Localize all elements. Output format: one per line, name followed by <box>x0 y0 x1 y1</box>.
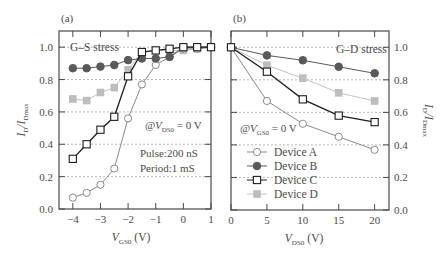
data-point-marker <box>227 44 234 51</box>
data-point-marker <box>207 44 214 51</box>
data-point-marker <box>166 45 173 52</box>
y-tick-label: 0.4 <box>394 139 408 151</box>
data-point-marker <box>110 61 118 69</box>
panel-b-gd-stress: 051015200.00.20.40.60.81.0(b)VDS0 (V)ID/… <box>227 12 435 247</box>
x-tick-label: 5 <box>264 214 270 226</box>
data-point-marker <box>299 74 307 82</box>
data-point-marker <box>124 73 131 80</box>
y-tick-label: 0.0 <box>39 203 53 215</box>
legend-marker <box>253 162 261 170</box>
legend-item: Device A <box>247 146 318 158</box>
x-tick-label: 0 <box>228 214 234 226</box>
data-point-marker <box>263 68 270 75</box>
data-point-marker <box>69 95 77 103</box>
data-point-marker <box>299 56 307 64</box>
y-tick-label: 0.0 <box>394 204 408 216</box>
series-device-c <box>227 44 378 126</box>
y-tick-label: 0.4 <box>39 138 53 150</box>
x-tick-label: 15 <box>333 214 345 226</box>
data-point-marker <box>371 97 379 105</box>
x-tick-label: −3 <box>95 213 107 225</box>
panel-a-gs-stress: −4−3−2−1010.00.20.40.60.81.0(a)VGS0 (V)I… <box>15 12 215 246</box>
stress-label: G–S stress <box>70 41 119 53</box>
data-point-marker <box>69 155 76 162</box>
y-tick-label: 0.2 <box>394 171 408 183</box>
legend-label: Device A <box>274 146 318 158</box>
data-point-marker <box>83 141 90 148</box>
data-point-marker <box>83 97 91 105</box>
data-point-marker <box>335 112 342 119</box>
data-point-marker <box>371 119 378 126</box>
legend-label: Device D <box>274 188 318 200</box>
legend-marker <box>253 190 261 198</box>
legend-item: Device D <box>247 188 318 200</box>
bias-annotation: @VGS0 = 0 V <box>240 122 297 136</box>
y-tick-label: 1.0 <box>39 41 53 53</box>
data-point-marker <box>124 115 131 122</box>
x-tick-label: 1 <box>208 213 214 225</box>
data-point-marker <box>335 89 343 97</box>
panel-label: (a) <box>61 12 74 25</box>
legend-marker <box>253 176 260 183</box>
x-tick-label: −2 <box>122 213 134 225</box>
period-annotation: Period:1 mS <box>140 162 195 174</box>
data-point-marker <box>69 194 76 201</box>
y-axis-title: ID/IDmax <box>15 103 30 138</box>
data-point-marker <box>263 97 270 104</box>
data-point-marker <box>166 53 174 61</box>
legend: Device ADevice BDevice CDevice D <box>247 146 318 200</box>
data-point-marker <box>83 189 90 196</box>
data-point-marker <box>180 44 187 51</box>
data-point-marker <box>152 47 159 54</box>
data-point-marker <box>110 84 118 92</box>
data-point-marker <box>69 64 77 72</box>
data-point-marker <box>138 81 145 88</box>
data-point-marker <box>124 56 132 64</box>
x-tick-label: −4 <box>67 213 79 225</box>
data-point-marker <box>371 146 378 153</box>
data-point-marker <box>97 181 104 188</box>
y-tick-label: 1.0 <box>394 41 408 53</box>
y-tick-label: 0.8 <box>39 74 53 86</box>
data-point-marker <box>371 70 379 78</box>
data-point-marker <box>152 55 160 63</box>
data-point-marker <box>111 165 118 172</box>
legend-label: Device B <box>274 160 317 172</box>
data-point-marker <box>194 44 201 51</box>
legend-marker <box>253 148 260 155</box>
x-axis-title: VDS0 (V) <box>285 232 324 247</box>
legend-item: Device B <box>247 160 317 172</box>
y-tick-label: 0.2 <box>39 171 53 183</box>
x-tick-label: −1 <box>150 213 162 225</box>
x-axis-title: VGS0 (V) <box>112 231 151 246</box>
pulse-annotation: Pulse:200 nS <box>140 147 198 159</box>
figure: −4−3−2−1010.00.20.40.60.81.0(a)VGS0 (V)I… <box>0 0 442 253</box>
data-point-marker <box>138 48 145 55</box>
legend-label: Device C <box>274 174 317 186</box>
data-point-marker <box>335 63 343 71</box>
data-point-marker <box>111 113 118 120</box>
bias-annotation: @VDS0 = 0 V <box>145 119 202 133</box>
data-point-marker <box>97 63 105 71</box>
panel-label: (b) <box>233 12 246 25</box>
x-tick-label: 10 <box>297 214 309 226</box>
legend-item: Device C <box>247 174 317 186</box>
y-tick-label: 0.6 <box>394 106 408 118</box>
x-tick-label: 20 <box>369 214 381 226</box>
data-point-marker <box>97 126 104 133</box>
data-point-marker <box>83 64 91 72</box>
data-point-marker <box>97 89 105 97</box>
stress-label: G–D stress <box>336 43 387 55</box>
y-tick-label: 0.6 <box>39 106 53 118</box>
data-point-marker <box>263 52 271 60</box>
y-tick-label: 0.8 <box>394 74 408 86</box>
data-point-marker <box>335 133 342 140</box>
y-axis-title: ID/IDmax <box>421 103 436 138</box>
x-tick-label: 0 <box>181 213 187 225</box>
data-point-marker <box>299 120 306 127</box>
data-point-marker <box>299 96 306 103</box>
